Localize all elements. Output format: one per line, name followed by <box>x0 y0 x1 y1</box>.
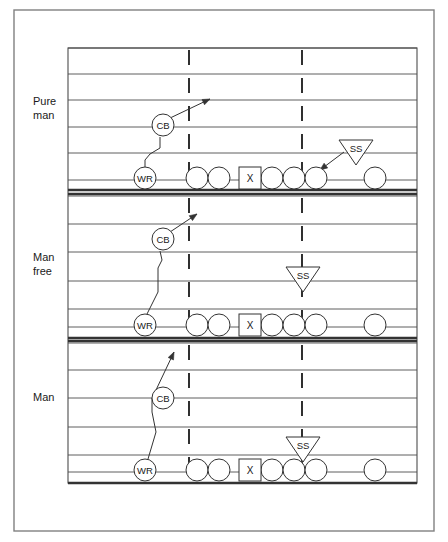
coverage-diagram-svg: XWRCBSSPuremanXWRCBSSManfreeXWRCBSSMan <box>0 0 448 542</box>
offense-split-receiver <box>364 459 386 481</box>
offense-split-receiver <box>364 314 386 336</box>
panel-label-man: Man <box>33 391 54 403</box>
offense-lineman-5 <box>283 314 305 336</box>
panel-label-man-free: free <box>33 265 52 277</box>
offense-lineman-2 <box>208 167 230 189</box>
panel-label-man-free: Man <box>33 251 54 263</box>
offense-lineman-6 <box>305 314 327 336</box>
offense-lineman-2 <box>208 314 230 336</box>
ss-label: SS <box>297 270 310 281</box>
center-box-label: X <box>247 320 254 331</box>
offense-lineman-5 <box>283 167 305 189</box>
offense-lineman-1 <box>186 167 208 189</box>
offense-lineman-4 <box>261 314 283 336</box>
offense-lineman-4 <box>261 167 283 189</box>
ss-label: SS <box>350 143 363 154</box>
center-box-label: X <box>247 173 254 184</box>
coverage-diagram-figure: XWRCBSSPuremanXWRCBSSManfreeXWRCBSSMan <box>0 0 448 542</box>
offense-lineman-5 <box>283 459 305 481</box>
offense-lineman-6 <box>305 459 327 481</box>
cb-label: CB <box>156 234 169 245</box>
panel-label-pure-man: man <box>33 109 54 121</box>
wr-label: WR <box>137 465 153 476</box>
wr-label: WR <box>137 173 153 184</box>
cb-label: CB <box>156 120 169 131</box>
offense-lineman-1 <box>186 314 208 336</box>
panel-label-pure-man: Pure <box>33 95 56 107</box>
ss-label: SS <box>297 440 310 451</box>
center-box-label: X <box>247 465 254 476</box>
offense-lineman-6 <box>305 167 327 189</box>
cb-label: CB <box>156 393 169 404</box>
offense-split-receiver <box>364 167 386 189</box>
offense-lineman-1 <box>186 459 208 481</box>
wr-label: WR <box>137 320 153 331</box>
offense-lineman-4 <box>261 459 283 481</box>
offense-lineman-2 <box>208 459 230 481</box>
